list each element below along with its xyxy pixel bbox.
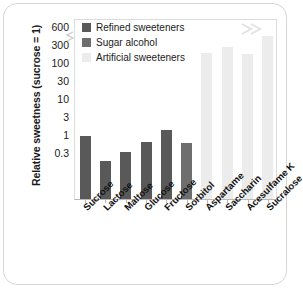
bar-aspartame	[201, 53, 212, 199]
legend-swatch-icon	[82, 38, 91, 47]
y-tick-label: 0.3	[35, 147, 69, 159]
bar-sucralose	[262, 36, 273, 199]
chart-card: Relative sweetness (sucrose = 1) 6003001…	[3, 3, 287, 285]
legend-swatch-icon	[82, 53, 91, 62]
legend-swatch-icon	[82, 23, 91, 32]
y-tick-label: 30	[35, 75, 69, 87]
y-axis-tick-labels: 6003001003010310.3	[35, 4, 69, 290]
legend-item: Artificial sweeteners	[82, 50, 185, 64]
legend-label: Refined sweeteners	[96, 22, 184, 33]
y-tick-label: 3	[35, 111, 69, 123]
y-tick-label: 300	[35, 39, 69, 51]
legend-label: Artificial sweeteners	[96, 52, 185, 63]
legend-item: Sugar alcohol	[82, 35, 185, 49]
y-tick-label: 1	[35, 129, 69, 141]
legend-label: Sugar alcohol	[96, 37, 157, 48]
legend: Refined sweetenersSugar alcoholArtificia…	[82, 20, 185, 65]
y-tick-label: 10	[35, 93, 69, 105]
bar-sucrose	[80, 136, 91, 199]
bar-break-icon	[240, 18, 262, 40]
legend-item: Refined sweeteners	[82, 20, 185, 34]
y-tick-label: 600	[35, 21, 69, 33]
y-tick-label: 100	[35, 57, 69, 69]
